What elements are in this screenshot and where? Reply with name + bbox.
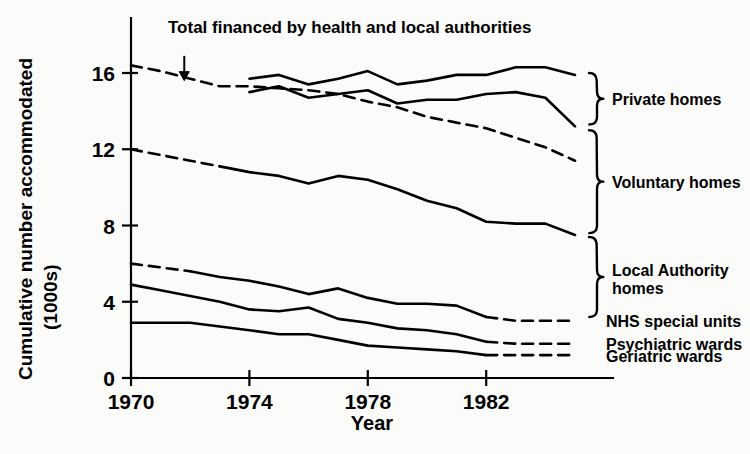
y-tick-label: 0 [103,367,115,390]
x-tick-label: 1982 [463,390,510,413]
series-path-solid [220,166,575,235]
data-series-layer [131,65,575,355]
legend-label: Geriatric wards [606,348,723,365]
legend-item: Private homes [589,73,721,124]
series-path-dashed [486,342,575,344]
legend-label: NHS special units [606,313,741,330]
series-path-solid [131,323,486,355]
series-path-dashed [486,317,575,321]
x-tick-label: 1974 [226,390,273,413]
chart-figure: Cumulative number accommodated (1000s) 0… [0,0,750,454]
series-path-solid [249,86,575,126]
legend-label: Local Authority [612,262,729,279]
legend-item: Voluntary homes [589,130,741,233]
series-path-solid [190,271,486,317]
y-tick-label: 12 [92,138,115,161]
x-tick-label: 1978 [344,390,391,413]
series-line [249,67,575,84]
y-axis-title-line2: (1000s) [40,265,61,331]
x-axis-ticks: 1970197419781982 [108,370,510,413]
total-financed-annotation: Total financed by health and local autho… [168,18,531,81]
legend-label: Voluntary homes [612,174,741,191]
series-line [131,65,575,160]
series-path-dashed [131,149,220,166]
series-line [249,86,575,126]
series-path-dashed [131,65,575,160]
series-line [131,323,575,355]
legend-brace-icon [589,130,603,233]
series-path-dashed [131,264,190,272]
y-axis-title: Cumulative number accommodated (1000s) [15,58,61,380]
x-tick-label: 1970 [108,390,155,413]
y-axis-title-line1: Cumulative number accommodated [15,58,36,380]
legend-label: Private homes [612,91,721,108]
annotation-text: Total financed by health and local autho… [168,18,531,37]
legend-brace-icon [589,237,603,317]
series-line [131,264,575,321]
legend: Private homesVoluntary homesLocal Author… [589,73,742,365]
y-tick-label: 4 [103,291,115,314]
series-path-solid [249,67,575,84]
legend-brace-icon [589,73,603,124]
series-line [131,149,575,235]
x-axis-title: Year [351,412,393,434]
legend-label: homes [612,280,664,297]
legend-item: Local Authorityhomes [589,237,729,317]
y-tick-label: 16 [92,62,115,85]
y-tick-label: 8 [103,215,115,238]
